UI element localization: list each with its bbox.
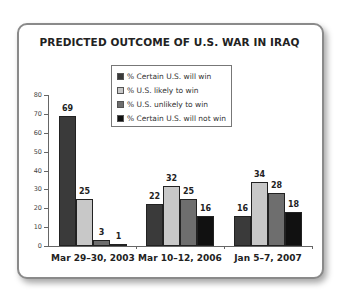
legend-item: % U.S. likely to win [117,83,226,97]
bar [110,244,127,246]
bar-value-label: 69 [58,104,78,113]
y-tick-label: 40 [22,167,42,175]
x-category-label: Jan 5–7, 2007 [223,253,313,263]
y-tick [44,171,48,172]
legend-label: % Certain U.S. will not win [127,114,226,123]
y-tick-label: 30 [22,185,42,193]
bar-value-label: 16 [196,204,216,213]
legend-label: % Certain U.S. will win [127,72,211,81]
x-tick [136,246,137,249]
y-tick [44,114,48,115]
legend-swatch [117,73,124,80]
bar-value-label: 34 [250,170,270,179]
bar [180,199,197,246]
y-tick-label: 60 [22,129,42,137]
x-tick [312,246,313,249]
bar-value-label: 28 [267,181,287,190]
bar [146,204,163,246]
bar [93,240,110,246]
bar-value-label: 1 [109,232,129,241]
bar [163,186,180,246]
y-tick-label: 50 [22,148,42,156]
bar-value-label: 32 [162,174,182,183]
bar-value-label: 25 [179,187,199,196]
y-tick [44,208,48,209]
legend-item: % Certain U.S. will not win [117,111,226,125]
bar [251,182,268,246]
y-tick [44,189,48,190]
y-tick [44,227,48,228]
legend-label: % U.S. unlikely to win [127,100,208,109]
chart-title: PREDICTED OUTCOME OF U.S. WAR IN IRAQ [0,36,339,48]
bar-value-label: 18 [284,200,304,209]
y-axis [48,95,49,247]
y-tick-label: 10 [22,223,42,231]
x-tick [224,246,225,249]
legend-label: % U.S. likely to win [127,86,199,95]
bar [285,212,302,246]
legend-swatch [117,101,124,108]
legend-swatch [117,87,124,94]
bar [197,216,214,246]
bar-value-label: 16 [233,204,253,213]
chart-legend: % Certain U.S. will win% U.S. likely to … [111,65,232,127]
y-tick [44,246,48,247]
x-category-label: Mar 29–30, 2003 [48,253,138,263]
bar [268,193,285,246]
bar [76,199,93,246]
bar-value-label: 22 [145,192,165,201]
y-tick [44,133,48,134]
bar-value-label: 25 [75,187,95,196]
x-category-label: Mar 10–12, 2006 [135,253,225,263]
y-tick-label: 70 [22,110,42,118]
y-tick-label: 0 [22,242,42,250]
y-tick-label: 80 [22,91,42,99]
bar [59,116,76,246]
y-tick [44,152,48,153]
bar [234,216,251,246]
y-tick-label: 20 [22,204,42,212]
legend-item: % U.S. unlikely to win [117,97,226,111]
y-tick [44,95,48,96]
legend-swatch [117,115,124,122]
legend-item: % Certain U.S. will win [117,69,226,83]
x-axis [48,246,312,247]
